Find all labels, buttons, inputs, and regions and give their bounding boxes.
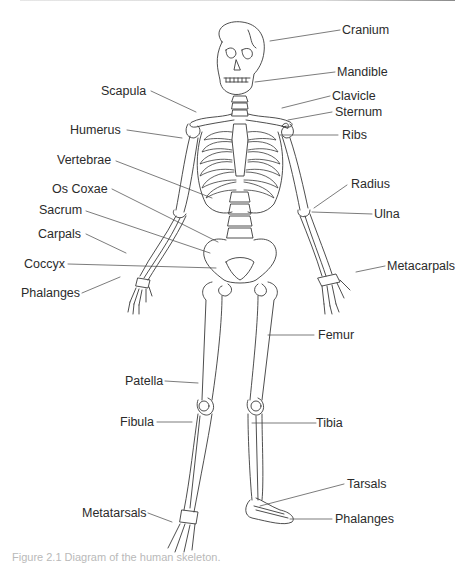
label-ribs: Ribs — [342, 128, 367, 142]
label-carpals: Carpals — [38, 227, 81, 241]
label-coccyx: Coccyx — [24, 257, 65, 271]
label-vertebrae: Vertebrae — [57, 153, 111, 167]
left-leg — [246, 282, 294, 524]
left-arm — [282, 136, 350, 314]
label-mandible: Mandible — [337, 65, 388, 79]
label-sacrum: Sacrum — [39, 203, 82, 217]
label-femur: Femur — [318, 328, 354, 342]
rib-cage — [197, 124, 283, 213]
right-leg — [168, 282, 222, 552]
figure-caption: Figure 2.1 Diagram of the human skeleton… — [12, 551, 221, 563]
right-arm — [128, 136, 198, 314]
label-os-coxae: Os Coxae — [52, 182, 108, 196]
skull — [217, 22, 264, 95]
pelvis — [204, 239, 277, 296]
label-sternum: Sternum — [335, 105, 382, 119]
label-phalanges-foot: Phalanges — [335, 512, 394, 526]
label-cranium: Cranium — [342, 23, 389, 37]
shoulder-girdle — [186, 114, 293, 138]
label-radius: Radius — [351, 177, 390, 191]
skeleton-drawing — [0, 0, 471, 564]
label-scapula: Scapula — [101, 84, 146, 98]
label-metacarpals: Metacarpals — [387, 259, 455, 273]
label-patella: Patella — [125, 374, 163, 388]
label-tibia: Tibia — [316, 416, 343, 430]
label-ulna: Ulna — [374, 207, 400, 221]
lumbar-spine — [227, 192, 253, 238]
label-tarsals: Tarsals — [347, 477, 387, 491]
cervical-vertebrae — [232, 96, 248, 116]
label-phalanges-hand: Phalanges — [21, 286, 80, 300]
label-fibula: Fibula — [120, 415, 154, 429]
label-humerus: Humerus — [70, 123, 121, 137]
label-metatarsals: Metatarsals — [82, 506, 147, 520]
label-clavicle: Clavicle — [332, 89, 376, 103]
